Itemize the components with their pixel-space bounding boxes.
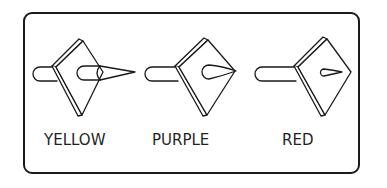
diagram-drawings [0,0,387,188]
yellow-dart-icon [33,39,135,116]
purple-dart-icon [145,38,236,116]
red-dart-icon [255,37,351,116]
label-red: RED [282,132,313,149]
label-yellow: YELLOW [44,132,105,149]
label-purple: PURPLE [152,132,209,149]
